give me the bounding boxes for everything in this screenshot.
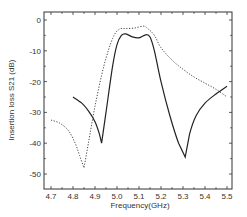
- y-tick-label: -20: [29, 78, 41, 87]
- x-tick-labels: 4.74.84.95.05.15.25.35.45.5: [45, 192, 233, 201]
- y-tick-labels: 0-10-20-30-40-50: [29, 16, 41, 179]
- y-tick-label: -40: [29, 139, 41, 148]
- plot-frame: [44, 12, 232, 189]
- x-tick-label: 5.3: [177, 192, 189, 201]
- y-axis-label: Insertion loss S21 (dB): [7, 59, 16, 140]
- y-tick-label: 0: [37, 16, 42, 25]
- y-tick-label: -30: [29, 108, 41, 117]
- x-tick-label: 5.2: [155, 192, 167, 201]
- x-tick-label: 5.0: [111, 192, 123, 201]
- x-tick-label: 4.8: [67, 192, 79, 201]
- x-tick-label: 4.9: [89, 192, 101, 201]
- axis-ticks: [44, 12, 232, 189]
- x-tick-label: 5.1: [133, 192, 145, 201]
- x-tick-label: 5.5: [221, 192, 233, 201]
- dotted-series-line: [51, 26, 227, 168]
- y-tick-label: -50: [29, 170, 41, 179]
- chart: 4.74.84.95.05.15.25.35.45.5 0-10-20-30-4…: [0, 0, 247, 217]
- x-tick-label: 4.7: [45, 192, 57, 201]
- x-axis-label: Frequency(GHz): [110, 201, 169, 210]
- series-lines: [51, 26, 227, 168]
- y-tick-label: -10: [29, 47, 41, 56]
- x-tick-label: 5.4: [199, 192, 211, 201]
- solid-series-line: [73, 34, 227, 157]
